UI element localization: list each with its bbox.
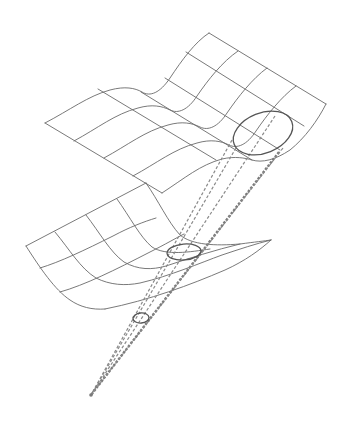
focal-point (89, 393, 93, 397)
lower-surface-left-edge (26, 246, 105, 309)
upper-footprint-ellipse (227, 103, 299, 163)
upper-surface-left-edge (45, 123, 162, 193)
lower-surface-right-edge (146, 183, 271, 245)
upper-surface-front-edge (162, 104, 326, 193)
projection-rays (91, 116, 283, 395)
lower-surface-top-edge (26, 183, 146, 246)
lower-surface-curve (86, 215, 240, 269)
lower-surface-ruling (40, 218, 156, 268)
projection-ray (91, 140, 232, 395)
surface-projection-diagram (0, 0, 362, 442)
projection-ray (91, 116, 275, 395)
projection-ray (91, 148, 283, 395)
upper-surface-curve (74, 51, 238, 141)
lower-surface-ruling (60, 234, 184, 292)
lower-surface-curve (55, 232, 271, 285)
projection-ray (91, 148, 236, 395)
lower-surface-bottom-edge (105, 240, 271, 309)
upper-surface-right-edge (209, 33, 326, 104)
upper-surface-ruling (98, 89, 216, 160)
aperture-ellipse (133, 312, 150, 323)
